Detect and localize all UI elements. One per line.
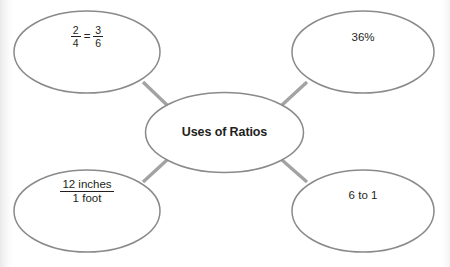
- label-ratio-words: 6 to 1: [313, 189, 413, 202]
- fraction-right-denominator: 6: [93, 37, 103, 49]
- ellipse-ratio-words[interactable]: [292, 170, 434, 252]
- diagram-canvas: 2 4 = 3 6 36% 12 inches 1 foot 6 to 1 Us…: [0, 0, 450, 267]
- label-center-uses-of-ratios: Uses of Ratios: [155, 126, 294, 140]
- label-percent: 36%: [313, 31, 413, 44]
- unit-rate-numerator: 12 inches: [60, 178, 113, 192]
- ellipse-percent[interactable]: [292, 11, 434, 93]
- equals-sign: =: [84, 31, 91, 43]
- connector-top-left: [143, 82, 167, 105]
- unit-rate-fraction: 12 inches 1 foot: [60, 178, 113, 205]
- label-fraction-equivalence: 2 4 = 3 6: [27, 20, 147, 49]
- connector-top-right: [282, 82, 307, 105]
- fraction-left: 2 4: [71, 24, 81, 49]
- connector-bottom-right: [282, 160, 307, 182]
- fraction-equation: 2 4 = 3 6: [71, 24, 103, 49]
- label-unit-rate: 12 inches 1 foot: [27, 178, 147, 205]
- fraction-right: 3 6: [93, 24, 103, 49]
- fraction-right-numerator: 3: [93, 24, 103, 37]
- unit-rate-denominator: 1 foot: [60, 192, 113, 205]
- fraction-left-numerator: 2: [71, 24, 81, 37]
- fraction-left-denominator: 4: [71, 37, 81, 49]
